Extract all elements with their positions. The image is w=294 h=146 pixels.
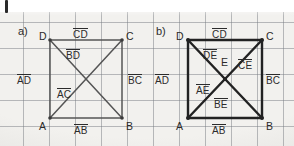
panel-b-vertex-dot-A [186,116,190,120]
panel-b-vertex-dot-C [260,38,264,42]
panel-b-label-BC: BC [266,74,280,86]
panel-b-vertex-D: D [176,31,184,41]
panel-b-label-AD: AD [155,74,169,86]
panel-b-vertex-E: E [221,57,228,67]
panel-b-label-AE: AE [196,84,210,96]
panel-b-figure [0,0,294,146]
panel-b-vertex-dot-B [260,116,264,120]
panel-b-label-CD: CD [212,28,227,40]
panel-b-vertex-B: B [266,121,273,131]
panel-b-label-DE: DE [203,49,217,61]
panel-b-label-CE: CE [238,59,252,71]
panel-b-tag: b) [156,26,166,37]
panel-b-vertex-A: A [176,121,183,131]
worksheet-sheet: a) D C A B CD BD AD AC BC AB b) D C A B … [0,0,294,146]
panel-b-label-BE: BE [214,98,228,110]
panel-b-center-dot-E [223,77,227,81]
panel-b-vertex-C: C [266,31,274,41]
page-top-margin [0,0,294,12]
panel-b-vertex-dot-D [186,38,190,42]
panel-b-label-AB: AB [212,124,226,136]
top-left-tick-mark [5,0,8,13]
